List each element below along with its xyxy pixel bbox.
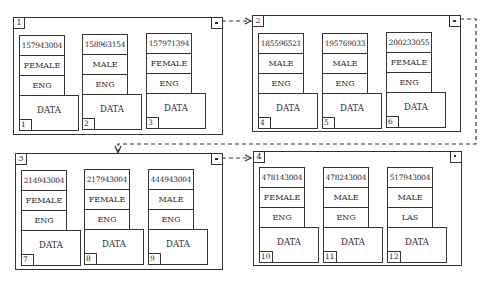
- page-number: 3: [15, 153, 27, 165]
- slot-number: 10: [259, 251, 273, 263]
- page-panel-1: 1 157943004 FEMALE ENG DATA 1 158963154 …: [13, 17, 223, 135]
- record-id: 195769033: [322, 33, 368, 54]
- record-card: 478143004 FEMALE ENG DATA 10: [259, 167, 319, 263]
- slot-number: 9: [148, 253, 161, 265]
- record-id: 478143004: [259, 167, 305, 188]
- record-sex: MALE: [323, 187, 369, 208]
- record-id: 444943004: [148, 169, 194, 190]
- record-card: 517943004 MALE LAS DATA 12: [387, 167, 447, 263]
- page-number: 2: [252, 15, 264, 27]
- record-lang: ENG: [146, 73, 192, 94]
- slot-number: 11: [323, 251, 337, 263]
- record-data: DATA 8: [84, 229, 144, 265]
- page-number: 1: [13, 17, 25, 29]
- next-pointer-icon[interactable]: [449, 15, 461, 27]
- slot-number: 4: [258, 117, 271, 129]
- record-id: 200233055: [386, 32, 432, 53]
- slot-number: 7: [21, 254, 34, 266]
- page-panel-2: 2 185596521 MALE ENG DATA 4 195769033 MA…: [252, 15, 461, 132]
- slot-number: 12: [387, 251, 401, 263]
- record-data: DATA 6: [386, 92, 446, 128]
- record-card: 157971394 FEMALE ENG DATA 3: [146, 33, 206, 129]
- record-lang: ENG: [259, 207, 305, 228]
- record-lang: ENG: [21, 210, 67, 231]
- slot-number: 8: [84, 253, 97, 265]
- link-1-to-2: [222, 18, 251, 24]
- record-data: DATA 12: [387, 227, 447, 263]
- record-card: 158963154 MALE ENG DATA 2: [82, 34, 142, 130]
- record-sex: MALE: [148, 189, 194, 210]
- record-card: 200233055 FEMALE ENG DATA 6: [386, 32, 446, 128]
- record-lang: ENG: [148, 209, 194, 230]
- record-card: 444943004 MALE ENG DATA 9: [148, 169, 208, 265]
- slot-number: 1: [19, 119, 32, 131]
- record-data: DATA 1: [19, 95, 79, 131]
- record-data: DATA 2: [82, 94, 142, 130]
- record-data: DATA 7: [21, 230, 81, 266]
- record-id: 478243004: [323, 167, 369, 188]
- record-card: 195769033 MALE ENG DATA 5: [322, 33, 382, 129]
- record-id: 517943004: [387, 167, 433, 188]
- record-lang: ENG: [19, 75, 65, 96]
- record-card: 217943004 FEMALE ENG DATA 8: [84, 169, 144, 265]
- record-id: 157971394: [146, 33, 192, 54]
- record-data: DATA 5: [322, 93, 382, 129]
- record-sex: MALE: [258, 53, 304, 74]
- record-lang: ENG: [258, 73, 304, 94]
- slot-number: 3: [146, 117, 159, 129]
- record-sex: FEMALE: [21, 190, 67, 211]
- record-lang: ENG: [322, 73, 368, 94]
- page-panel-3: 3 214943004 FEMALE ENG DATA 7 217943004 …: [15, 153, 223, 270]
- record-id: 157943004: [19, 35, 65, 56]
- record-data: DATA 9: [148, 229, 208, 265]
- record-card: 478243004 MALE ENG DATA 11: [323, 167, 383, 263]
- record-id: 217943004: [84, 169, 130, 190]
- record-sex: MALE: [322, 53, 368, 74]
- next-pointer-icon[interactable]: [211, 153, 223, 165]
- record-id: 185596521: [258, 33, 304, 54]
- slot-number: 6: [386, 116, 399, 128]
- record-sex: MALE: [387, 187, 433, 208]
- link-3-to-4: [222, 155, 251, 161]
- record-data: DATA 10: [259, 227, 319, 263]
- page-panel-4: 4 478143004 FEMALE ENG DATA 10 478243004…: [253, 151, 462, 266]
- record-card: 185596521 MALE ENG DATA 4: [258, 33, 318, 129]
- record-sex: FEMALE: [19, 55, 65, 76]
- record-sex: FEMALE: [386, 52, 432, 73]
- record-lang: ENG: [84, 209, 130, 230]
- null-pointer-icon: [450, 151, 462, 163]
- record-sex: FEMALE: [259, 187, 305, 208]
- record-card: 157943004 FEMALE ENG DATA 1: [19, 35, 79, 131]
- slot-number: 5: [322, 117, 335, 129]
- record-lang: ENG: [386, 72, 432, 93]
- record-sex: FEMALE: [84, 189, 130, 210]
- record-id: 214943004: [21, 170, 67, 191]
- page-number: 4: [253, 151, 265, 163]
- slot-number: 2: [82, 118, 95, 130]
- record-data: DATA 3: [146, 93, 206, 129]
- record-data: DATA 4: [258, 93, 318, 129]
- record-card: 214943004 FEMALE ENG DATA 7: [21, 170, 81, 266]
- record-lang: ENG: [323, 207, 369, 228]
- record-id: 158963154: [82, 34, 128, 55]
- next-pointer-icon[interactable]: [211, 17, 223, 29]
- record-lang: ENG: [82, 74, 128, 95]
- record-data: DATA 11: [323, 227, 383, 263]
- record-lang: LAS: [387, 207, 433, 228]
- record-sex: FEMALE: [146, 53, 192, 74]
- record-sex: MALE: [82, 54, 128, 75]
